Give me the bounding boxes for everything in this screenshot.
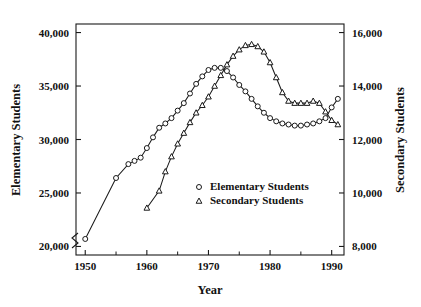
- marker-circle: [132, 158, 137, 163]
- series-markers: [83, 41, 341, 241]
- marker-triangle: [310, 98, 316, 103]
- marker-circle: [126, 162, 131, 167]
- y-tick-label: 30,000: [39, 134, 70, 146]
- axis-break-icon: [72, 233, 78, 248]
- legend-label-2: Secondary Students: [210, 194, 304, 206]
- marker-circle: [151, 135, 156, 140]
- marker-circle: [274, 119, 279, 124]
- marker-circle: [305, 122, 310, 127]
- marker-circle: [144, 146, 149, 151]
- marker-circle: [187, 91, 192, 96]
- marker-circle: [212, 65, 217, 70]
- y2-tick-label: 8,000: [352, 240, 377, 252]
- students-line-chart: 19501960197019801990 20,00025,00030,0003…: [0, 0, 421, 307]
- marker-circle: [224, 69, 229, 74]
- marker-triangle: [267, 60, 273, 65]
- marker-circle: [268, 116, 273, 121]
- x-axis-title: Year: [198, 283, 223, 297]
- marker-circle: [175, 108, 180, 113]
- y2-tick-label: 16,000: [352, 27, 383, 39]
- marker-triangle: [218, 72, 224, 77]
- y2-tick-label: 14,000: [352, 80, 383, 92]
- y-tick-label: 35,000: [39, 80, 70, 92]
- y-tick-label: 25,000: [39, 187, 70, 199]
- y-axis-right-ticks: [339, 33, 344, 247]
- x-tick-label: 1970: [197, 260, 220, 272]
- marker-circle: [323, 116, 328, 121]
- marker-triangle: [206, 94, 212, 99]
- legend-label-1: Elementary Students: [210, 180, 309, 192]
- marker-circle: [169, 116, 174, 121]
- y-axis-left-tick-labels: 20,00025,00030,00035,00040,000: [39, 27, 70, 253]
- marker-circle: [249, 96, 254, 101]
- marker-triangle: [169, 154, 175, 159]
- x-tick-label: 1980: [259, 260, 282, 272]
- chart-legend: Elementary StudentsSecondary Students: [196, 180, 309, 206]
- series-line-1: [85, 68, 338, 239]
- marker-circle: [181, 101, 186, 106]
- marker-circle: [286, 122, 291, 127]
- plot-frame: [76, 24, 344, 255]
- y-tick-label: 20,000: [39, 240, 70, 252]
- marker-circle: [200, 74, 205, 79]
- marker-triangle: [280, 89, 286, 94]
- y-axis-right-tick-labels: 8,00010,00012,00014,00016,000: [352, 27, 383, 253]
- marker-circle: [114, 176, 119, 181]
- marker-triangle: [236, 47, 242, 52]
- y2-tick-label: 10,000: [352, 187, 383, 199]
- marker-circle: [255, 104, 260, 109]
- y-axis-left-title: Elementary Students: [9, 84, 23, 196]
- marker-circle: [335, 96, 340, 101]
- marker-triangle: [156, 188, 162, 193]
- chart-container: 19501960197019801990 20,00025,00030,0003…: [0, 0, 421, 307]
- marker-triangle: [162, 169, 168, 174]
- marker-triangle: [249, 41, 255, 46]
- marker-circle: [194, 81, 199, 86]
- marker-triangle: [175, 141, 181, 146]
- x-tick-label: 1960: [136, 260, 159, 272]
- marker-circle: [329, 105, 334, 110]
- marker-circle: [218, 65, 223, 70]
- x-tick-label: 1990: [321, 260, 344, 272]
- marker-triangle: [273, 74, 279, 79]
- marker-triangle: [335, 122, 341, 127]
- y-axis-left-ticks: [76, 33, 81, 247]
- marker-circle: [157, 125, 162, 130]
- marker-circle: [138, 155, 143, 160]
- marker-circle: [163, 121, 168, 126]
- y-tick-label: 40,000: [39, 27, 70, 39]
- marker-circle: [280, 121, 285, 126]
- x-tick-label: 1950: [74, 260, 97, 272]
- marker-circle: [206, 67, 211, 72]
- marker-circle: [311, 121, 316, 126]
- marker-circle: [292, 123, 297, 128]
- x-axis-ticks: [85, 250, 331, 255]
- y-axis-right-title: Secondary Students: [393, 87, 407, 193]
- marker-circle: [197, 185, 202, 190]
- marker-circle: [261, 110, 266, 115]
- marker-circle: [298, 123, 303, 128]
- marker-triangle: [212, 83, 218, 88]
- marker-circle: [317, 119, 322, 124]
- marker-triangle: [196, 198, 202, 203]
- series-lines: [85, 44, 338, 239]
- marker-circle: [237, 82, 242, 87]
- marker-circle: [83, 236, 88, 241]
- y2-tick-label: 12,000: [352, 134, 383, 146]
- marker-triangle: [181, 130, 187, 135]
- x-axis-tick-labels: 19501960197019801990: [74, 260, 343, 272]
- marker-circle: [231, 75, 236, 80]
- marker-circle: [243, 89, 248, 94]
